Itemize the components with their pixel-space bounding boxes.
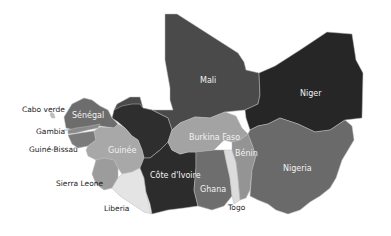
label-ghana: Ghana xyxy=(200,185,226,194)
country-niger[interactable] xyxy=(245,32,363,132)
label-burkina-faso: Burkina Faso xyxy=(189,133,240,142)
west-africa-map: Mali Niger Sénégal Guinée Burkina Faso B… xyxy=(0,0,391,236)
label-gambia: Gambia xyxy=(36,127,65,136)
label-nigeria: Nigeria xyxy=(283,164,312,173)
label-mali: Mali xyxy=(200,76,216,85)
label-cabo-verde: Cabo verde xyxy=(22,105,65,114)
label-niger: Niger xyxy=(300,89,322,98)
label-togo: Togo xyxy=(227,203,246,212)
label-cote-divoire: Côte d'Ivoire xyxy=(150,170,201,180)
label-benin: Bénin xyxy=(235,148,258,158)
label-guine-bissau: Guiné-Bissau xyxy=(29,145,78,154)
label-senegal: Sénégal xyxy=(72,110,104,120)
label-liberia: Liberia xyxy=(104,204,129,213)
label-sierra-leone: Sierra Leone xyxy=(56,179,103,188)
label-guinee: Guinée xyxy=(108,145,136,155)
